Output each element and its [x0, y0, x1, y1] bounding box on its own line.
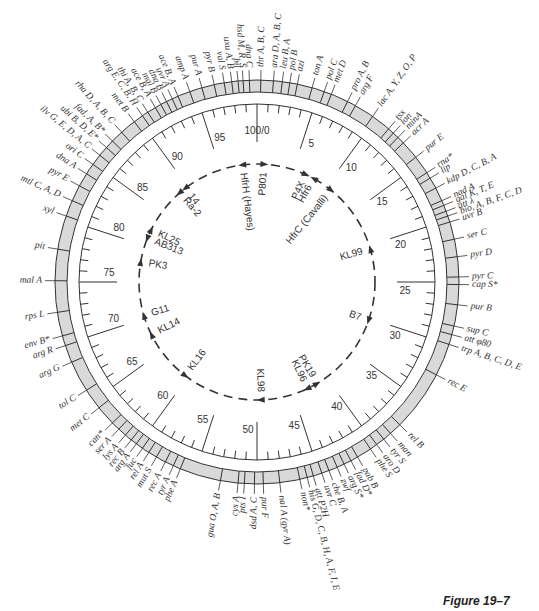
- gene-leader: [119, 435, 126, 443]
- gene-leader: [322, 473, 325, 482]
- minute-label: 95: [214, 132, 226, 143]
- minor-tick: [246, 452, 247, 460]
- gene-leader: [186, 82, 189, 91]
- gene-leader: [444, 201, 453, 205]
- gene-leader: [48, 248, 58, 250]
- gene-leader: [142, 104, 147, 112]
- gene-leader: [282, 72, 283, 82]
- minor-tick: [79, 271, 87, 272]
- gene-leader: [242, 71, 243, 81]
- transfer-direction-arrow-icon: [310, 177, 318, 183]
- minor-tick: [162, 426, 166, 433]
- gene-leader: [331, 85, 335, 94]
- gene-leader: [223, 73, 225, 83]
- transfer-direction-arrow-icon: [312, 382, 320, 389]
- gene-label: nal A (gyr A): [276, 495, 293, 545]
- major-tick: [300, 415, 312, 451]
- gene-leader: [143, 453, 148, 461]
- minor-tick: [411, 206, 418, 209]
- minute-label: 75: [103, 267, 115, 278]
- transfer-direction-arrow-icon: [301, 170, 310, 176]
- minor-tick: [320, 116, 323, 123]
- minor-tick: [171, 126, 175, 133]
- gene-label: ser C: [466, 226, 489, 240]
- gene-label: pyr D: [469, 247, 493, 260]
- minor-tick: [127, 160, 133, 165]
- minor-tick: [181, 436, 184, 443]
- gene-leader: [162, 93, 166, 102]
- transfer-direction-arrow-icon: [367, 316, 373, 325]
- gene-leader: [297, 74, 299, 84]
- gene-leader: [78, 168, 86, 173]
- gene-leader: [398, 130, 405, 137]
- gene-leader: [176, 469, 180, 478]
- gene-leader: [329, 471, 333, 480]
- minor-tick: [289, 449, 290, 457]
- minor-tick: [339, 126, 343, 133]
- minor-tick: [246, 104, 247, 112]
- minor-tick: [213, 110, 215, 118]
- minute-label: 45: [289, 420, 301, 431]
- minor-tick: [135, 152, 140, 158]
- minor-tick: [224, 107, 225, 115]
- gene-label: pur B: [469, 300, 493, 312]
- minor-tick: [82, 314, 90, 315]
- gene-label: azi: [294, 59, 306, 72]
- gene-leader: [389, 121, 396, 129]
- hfr-strain-label: P801: [256, 171, 268, 195]
- minor-tick: [268, 452, 269, 460]
- gene-leader: [373, 108, 379, 116]
- minor-tick: [181, 121, 184, 128]
- gene-leader: [446, 208, 455, 212]
- gene-leader: [57, 213, 66, 216]
- gene-leader: [337, 467, 341, 476]
- gene-leader: [458, 305, 468, 306]
- gene-leader: [358, 457, 363, 466]
- minor-tick: [278, 105, 279, 113]
- gene-leader: [344, 464, 348, 473]
- minor-tick: [348, 426, 352, 433]
- minute-label: 60: [157, 390, 169, 401]
- minor-tick: [348, 132, 352, 139]
- gene-label: pur F: [260, 496, 271, 519]
- hfr-strain-circle: HfrH (Hayes)P801P4XHfr6HfrC (Cavalli)KL9…: [137, 161, 375, 403]
- minor-tick: [101, 364, 108, 368]
- minor-tick: [299, 110, 301, 118]
- gene-leader: [436, 183, 445, 188]
- minute-label: 35: [366, 370, 378, 381]
- minute-label: 15: [376, 196, 388, 207]
- minor-tick: [80, 260, 88, 261]
- minor-tick: [191, 440, 194, 447]
- gene-leader: [351, 461, 356, 470]
- minor-tick: [82, 249, 90, 250]
- transfer-direction-arrow-icon: [150, 331, 156, 339]
- gene-leader: [436, 375, 445, 380]
- minor-tick: [388, 390, 394, 395]
- gene-leader: [150, 99, 155, 108]
- gene-leader: [452, 335, 462, 338]
- minor-tick: [85, 238, 93, 240]
- minor-tick: [85, 324, 93, 326]
- gene-leader: [91, 408, 99, 414]
- gene-leader: [430, 173, 439, 178]
- minute-label: 80: [113, 222, 125, 233]
- genetic-map-diagram: 100/051015202530354045505560657075808590…: [0, 0, 539, 611]
- minor-tick: [91, 345, 98, 348]
- gene-leader: [219, 481, 221, 491]
- minor-tick: [381, 398, 387, 403]
- gene-leader: [62, 362, 71, 366]
- gene-leader: [449, 344, 459, 347]
- minor-tick: [422, 238, 430, 240]
- minor-tick: [329, 436, 332, 443]
- gene-leader: [169, 466, 173, 475]
- minute-label: 20: [395, 239, 407, 250]
- gene-leader: [403, 136, 410, 143]
- gene-label: thr A, B, C: [255, 26, 266, 68]
- major-tick: [339, 395, 361, 426]
- minute-label: 55: [197, 414, 209, 425]
- minor-tick: [388, 169, 394, 174]
- minor-tick: [213, 447, 215, 455]
- minor-tick: [289, 107, 290, 115]
- minor-tick: [162, 132, 166, 139]
- gene-leader: [300, 479, 302, 489]
